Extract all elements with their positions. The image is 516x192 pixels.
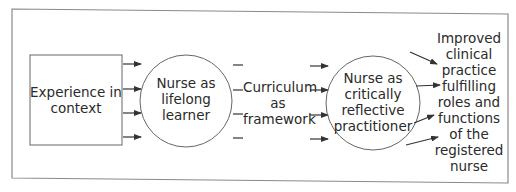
arrows-experience-to-lifelong	[123, 64, 141, 137]
label-line: as	[243, 95, 313, 111]
label-line: roles and	[434, 94, 504, 110]
outcome-label: Improved clinical practice fulfilling ro…	[434, 30, 504, 174]
label-line: practice	[434, 62, 504, 78]
label-line: clinical	[434, 46, 504, 62]
curriculum-label: Curriculum as framework	[243, 79, 313, 127]
label-line: lifelong	[146, 91, 226, 107]
lifelong-learner-label: Nurse as lifelong learner	[146, 75, 226, 123]
experience-label: Experience in context	[30, 84, 122, 116]
label-line: learner	[146, 107, 226, 123]
label-line: Improved	[434, 30, 504, 46]
label-line: of the	[434, 126, 504, 142]
label-line: Nurse as	[146, 75, 226, 91]
label-line: practitioner	[328, 118, 418, 134]
label-line: context	[30, 100, 122, 116]
label-line: Experience in	[30, 84, 122, 100]
reflective-practitioner-label: Nurse as critically reflective practitio…	[328, 70, 418, 134]
label-line: reflective	[328, 102, 418, 118]
label-line: critically	[328, 86, 418, 102]
label-line: fulfilling	[434, 78, 504, 94]
label-line: registered	[434, 142, 504, 158]
dashes-lifelong-to-curriculum	[233, 65, 243, 138]
label-line: nurse	[434, 158, 504, 174]
label-line: functions	[434, 110, 504, 126]
label-line: Curriculum	[243, 79, 313, 95]
label-line: framework	[243, 111, 313, 127]
label-line: Nurse as	[328, 70, 418, 86]
